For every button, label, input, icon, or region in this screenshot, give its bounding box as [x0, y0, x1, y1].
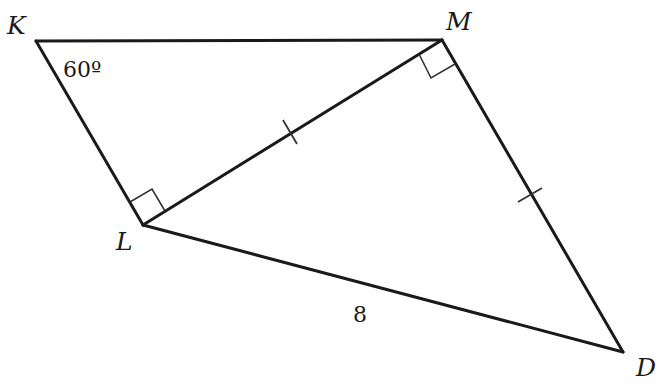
- segment-LD: [143, 225, 623, 352]
- angle-label-K: 60º: [63, 57, 101, 82]
- vertex-label-M: M: [445, 7, 473, 36]
- geometry-diagram: K M L D 60º 8: [0, 0, 663, 384]
- segment-LM: [143, 40, 442, 225]
- segment-MD: [442, 40, 623, 352]
- segment-KM: [36, 40, 442, 41]
- right-angle-mark-M: [419, 54, 455, 78]
- side-label-LD: 8: [353, 302, 367, 327]
- vertex-label-L: L: [115, 227, 133, 256]
- vertex-label-K: K: [6, 11, 27, 40]
- right-angle-mark-L: [130, 189, 165, 211]
- vertex-label-D: D: [635, 353, 656, 382]
